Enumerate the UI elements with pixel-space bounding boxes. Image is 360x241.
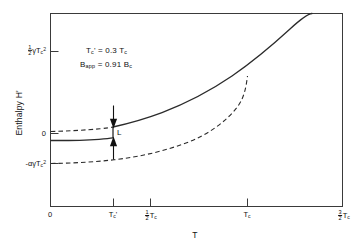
- xtick-label-three-halves-tc: 32Tc: [338, 210, 350, 222]
- plot-frame: [51, 14, 343, 207]
- annotation-tc-prime-value: Tc' = 0.3 Tc: [86, 46, 127, 55]
- x-axis-title-text: T: [192, 230, 197, 240]
- xtick-label-tc: Tc: [243, 210, 250, 219]
- curve-superconducting-dashed: [51, 76, 248, 164]
- plot-canvas: [0, 0, 360, 241]
- latent-heat-label: L: [117, 128, 121, 137]
- ytick-label-half-gamma-tc-squared: 12γTc2: [0, 45, 46, 57]
- enthalpy-vs-temperature-figure: L 12γTc2 0 -αγTc2 0 Tc' 12Tc Tc 32Tc Tc'…: [0, 0, 360, 241]
- curve-normal-state-dashed: [51, 127, 113, 132]
- latent-heat-arrow-down: [110, 106, 117, 129]
- x-axis-title: T: [150, 224, 240, 241]
- curve-solid-above-transition: [113, 14, 312, 128]
- xtick-label-tc-prime: Tc': [109, 210, 118, 219]
- curve-solid-below-transition: [51, 138, 113, 141]
- xtick-label-zero: 0: [48, 210, 52, 219]
- y-axis-title-text: Enthalpy H': [14, 90, 24, 135]
- latent-heat-arrow-up: [110, 137, 117, 160]
- x-axis-ticks: [51, 199, 343, 207]
- xtick-label-half-tc: 12Tc: [145, 210, 157, 222]
- y-axis-ticks: [51, 52, 59, 164]
- y-axis-title: Enthalpy H': [8, 58, 26, 168]
- annotation-bapp-value: Bapp = 0.91 Bc: [80, 60, 132, 69]
